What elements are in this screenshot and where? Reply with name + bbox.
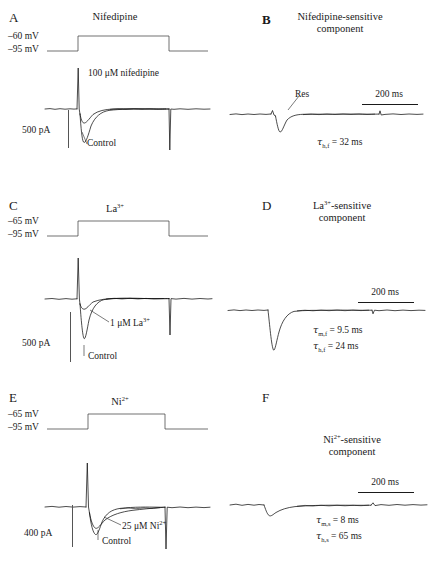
panel-e-current-scale-bar <box>72 505 73 547</box>
panel-d-title-superscript: 3+ <box>324 199 331 206</box>
panel-f-title-suffix: -sensitive <box>341 434 381 445</box>
panel-a-letter: A <box>9 10 18 26</box>
panel-d-tau-2-subscript: h,f <box>318 346 325 353</box>
panel-a-control-leader <box>76 126 94 148</box>
panel-f-title-superscript: 2+ <box>334 433 341 440</box>
panel-d-title: La3+-sensitive component <box>283 200 401 223</box>
panel-b-tau-1-value: = 32 ms <box>332 137 363 147</box>
panel-e-current-scale-label: 400 pA <box>24 528 52 538</box>
panel-c-drug-label-superscript: 3+ <box>143 316 150 323</box>
panel-f-title-base: Ni <box>323 434 334 445</box>
panel-a-title: Nifedipine <box>60 11 170 23</box>
panel-b-title: Nifedipine-sensitive component <box>280 11 400 34</box>
panel-b-tau-1-subscript: h,f <box>322 142 329 149</box>
panel-c-drug-label: 1 μM La3+ <box>110 318 150 328</box>
panel-f-tau-1-subscript: m,s <box>321 520 330 527</box>
panel-d-letter: D <box>262 198 271 214</box>
panel-f-tau-1: τm,s = 8 ms <box>316 514 359 525</box>
panel-d-tau-1-value: = 9.5 ms <box>330 325 363 335</box>
panel-b-tau-1: τh,f = 32 ms <box>317 136 362 147</box>
panel-b-title-line2: component <box>317 23 364 34</box>
panel-c-current-scale-bar <box>70 312 71 362</box>
panel-b-title-line1: Nifedipine-sensitive <box>297 11 382 22</box>
panel-b-current-trace <box>217 84 434 144</box>
panel-e-control-leader <box>92 526 108 544</box>
panel-c-control-leader <box>78 340 94 360</box>
panel-d-title-line2: component <box>319 212 366 223</box>
panel-c-drug-label-base: 1 μM La <box>110 318 143 328</box>
figure-panel-grid: A Nifedipine –60 mV –95 mV 100 μM nifedi… <box>0 0 434 565</box>
panel-e-drug-label: 25 μM Ni2+ <box>122 521 166 531</box>
panel-f-letter: F <box>262 390 269 406</box>
panel-a-current-scale-bar <box>68 110 69 148</box>
panel-d-tau-2: τh,f = 24 ms <box>313 340 358 351</box>
panel-c-title-superscript: 3+ <box>117 202 124 209</box>
panel-f-tau-1-value: = 8 ms <box>333 515 359 525</box>
panel-f-tau-2: τh,s = 65 ms <box>316 530 362 541</box>
panel-c-drug-leader <box>86 305 114 329</box>
panel-f-tau-2-value: = 65 ms <box>331 531 362 541</box>
panel-c-voltage-protocol-trace <box>0 210 217 250</box>
panel-e-voltage-protocol-trace <box>0 403 217 443</box>
panel-f-tau-2-subscript: h,s <box>321 536 328 543</box>
panel-f-title: Ni2+-sensitive component <box>292 434 412 457</box>
panel-a-voltage-protocol-trace <box>0 25 217 65</box>
panel-e-drug-label-superscript: 2+ <box>159 519 166 526</box>
panel-f-title-line2: component <box>329 446 376 457</box>
panel-a-current-scale-label: 500 pA <box>22 125 50 135</box>
panel-e-title-superscript: 2+ <box>122 395 129 402</box>
panel-c-current-traces <box>0 252 217 352</box>
panel-d-title-suffix: -sensitive <box>331 200 371 211</box>
panel-d-tau-2-value: = 24 ms <box>328 341 359 351</box>
panel-b-letter: B <box>262 12 271 28</box>
panel-e-drug-label-base: 25 μM Ni <box>122 521 159 531</box>
panel-d-tau-1: τm,f = 9.5 ms <box>313 324 363 335</box>
panel-d-tau-1-subscript: m,f <box>318 330 327 337</box>
panel-d-title-base: La <box>313 200 324 211</box>
panel-c-current-scale-label: 500 pA <box>22 338 50 348</box>
